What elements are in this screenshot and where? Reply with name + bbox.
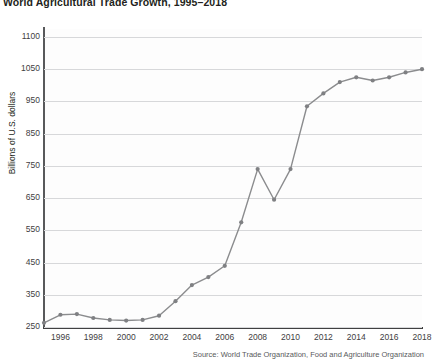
data-point bbox=[108, 318, 112, 322]
data-point bbox=[420, 67, 424, 71]
data-point bbox=[256, 167, 260, 171]
data-point bbox=[321, 91, 325, 95]
data-point bbox=[288, 167, 292, 171]
data-point bbox=[141, 318, 145, 322]
data-point bbox=[387, 75, 391, 79]
data-point bbox=[354, 75, 358, 79]
data-point bbox=[272, 198, 276, 202]
data-point bbox=[305, 104, 309, 108]
data-point bbox=[223, 264, 227, 268]
series-line bbox=[44, 69, 422, 323]
series-markers bbox=[42, 67, 424, 325]
data-point bbox=[371, 78, 375, 82]
data-point bbox=[173, 299, 177, 303]
source-note: Source: World Trade Organization, Food a… bbox=[0, 350, 424, 359]
data-point bbox=[190, 283, 194, 287]
data-point bbox=[206, 275, 210, 279]
data-point bbox=[338, 80, 342, 84]
data-point bbox=[42, 321, 46, 325]
data-point bbox=[239, 220, 243, 224]
data-point bbox=[124, 318, 128, 322]
data-point bbox=[58, 313, 62, 317]
data-point bbox=[157, 314, 161, 318]
data-point bbox=[91, 316, 95, 320]
data-point bbox=[75, 312, 79, 316]
data-point bbox=[403, 70, 407, 74]
